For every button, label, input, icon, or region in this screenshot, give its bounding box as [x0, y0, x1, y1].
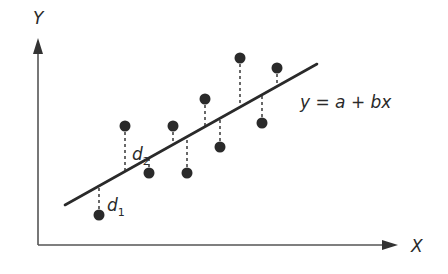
residual-label-d2: d2 [132, 144, 150, 168]
y-axis-label: Y [33, 8, 45, 28]
regression-line-path [65, 64, 317, 205]
data-point [94, 210, 105, 221]
data-point [235, 53, 246, 64]
data-point [182, 168, 193, 179]
data-point [120, 121, 131, 132]
y-axis-arrow-icon [33, 38, 43, 54]
data-point [272, 63, 283, 74]
x-axis-label: X [410, 236, 423, 256]
data-point [215, 142, 226, 153]
residual-labels: d1d2 [107, 144, 150, 219]
residual-label-d1: d1 [107, 195, 125, 219]
regression-line [65, 64, 317, 205]
regression-diagram: Y X y = a + bx d1d2 [0, 0, 448, 274]
labels: Y X y = a + bx [33, 8, 423, 256]
diagram-svg: Y X y = a + bx d1d2 [0, 0, 448, 274]
regression-equation: y = a + bx [299, 92, 392, 112]
data-point [257, 118, 268, 129]
data-point [200, 94, 211, 105]
data-point [168, 121, 179, 132]
data-point [144, 168, 155, 179]
x-axis-arrow-icon [382, 240, 398, 250]
